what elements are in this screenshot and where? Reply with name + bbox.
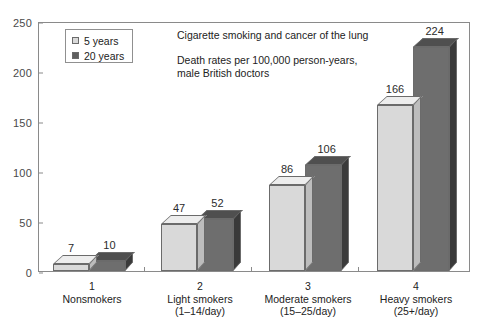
y-tick-label-0: 0 xyxy=(26,267,39,279)
x-category-number: 1 xyxy=(63,280,122,293)
y-tick-label-200: 200 xyxy=(13,67,39,79)
bar-3-5-years: 86 xyxy=(269,185,305,271)
x-category-3: 3Moderate smokers(15–25/day) xyxy=(265,280,352,318)
bar-side-face xyxy=(341,156,349,271)
bar-side-face xyxy=(197,215,205,271)
bar-side-face xyxy=(233,210,241,271)
bar-side-face xyxy=(413,96,421,271)
x-category-range: (1–14/day) xyxy=(167,305,232,318)
x-tick-mark-3 xyxy=(358,267,359,272)
y-tick-mark-150 xyxy=(39,123,43,124)
x-category-name: Light smokers xyxy=(167,293,232,306)
y-tick-mark-0 xyxy=(39,273,43,274)
x-category-4: 4Heavy smokers(25+/day) xyxy=(380,280,452,318)
y-tick-label-150: 150 xyxy=(13,117,39,129)
bar-value-label: 86 xyxy=(281,163,293,175)
legend: 5 years 20 years xyxy=(65,29,133,63)
annotation-block: Cigarette smoking and cancer of the lung… xyxy=(177,29,368,80)
bar-value-label: 166 xyxy=(386,83,404,95)
bar-value-label: 10 xyxy=(103,239,115,251)
legend-label-5-years: 5 years xyxy=(84,35,118,47)
bar-front-face xyxy=(161,224,197,271)
y-tick-label-100: 100 xyxy=(13,167,39,179)
y-tick-mark-100 xyxy=(39,173,43,174)
plot-area: 0 50 100 150 200 250 710475286106166224 … xyxy=(38,22,470,272)
bar-front-face xyxy=(53,264,89,271)
bar-side-face xyxy=(449,38,457,271)
bar-front-face xyxy=(269,185,305,271)
legend-item-5-years[interactable]: 5 years xyxy=(72,34,132,47)
x-category-number: 2 xyxy=(167,280,232,293)
legend-swatch-light-icon xyxy=(72,37,79,44)
x-category-2: 2Light smokers(1–14/day) xyxy=(167,280,232,318)
chart-title: Cigarette smoking and cancer of the lung xyxy=(177,29,368,42)
bar-1-5-years: 7 xyxy=(53,264,89,271)
bar-value-label: 47 xyxy=(173,202,185,214)
y-tick-mark-200 xyxy=(39,73,43,74)
y-tick-mark-250 xyxy=(39,23,43,24)
bar-front-face xyxy=(377,105,413,271)
x-category-range: (15–25/day) xyxy=(265,305,352,318)
bar-side-face xyxy=(305,176,313,271)
x-category-name: Moderate smokers xyxy=(265,293,352,306)
y-tick-mark-50 xyxy=(39,223,43,224)
x-category-range: (25+/day) xyxy=(380,305,452,318)
y-tick-label-50: 50 xyxy=(19,217,39,229)
x-tick-mark-2 xyxy=(251,267,252,272)
bar-value-label: 52 xyxy=(211,197,223,209)
legend-label-20-years: 20 years xyxy=(84,50,124,62)
x-category-name: Heavy smokers xyxy=(380,293,452,306)
legend-item-20-years[interactable]: 20 years xyxy=(72,49,132,62)
x-category-number: 4 xyxy=(380,280,452,293)
x-category-1: 1Nonsmokers xyxy=(63,280,122,305)
bar-4-5-years: 166 xyxy=(377,105,413,271)
x-tick-mark-1 xyxy=(144,267,145,272)
bar-value-label: 106 xyxy=(317,143,335,155)
legend-swatch-dark-icon xyxy=(72,52,79,59)
x-category-name: Nonsmokers xyxy=(63,293,122,306)
bar-value-label: 224 xyxy=(425,25,443,37)
y-tick-label-250: 250 xyxy=(13,17,39,29)
chart-screenshot: 0 50 100 150 200 250 710475286106166224 … xyxy=(0,0,486,321)
x-category-number: 3 xyxy=(265,280,352,293)
bar-2-5-years: 47 xyxy=(161,224,197,271)
bar-value-label: 7 xyxy=(68,242,74,254)
chart-subtitle-line-1: Death rates per 100,000 person-years, xyxy=(177,54,368,67)
chart-subtitle-line-2: male British doctors xyxy=(177,67,368,80)
